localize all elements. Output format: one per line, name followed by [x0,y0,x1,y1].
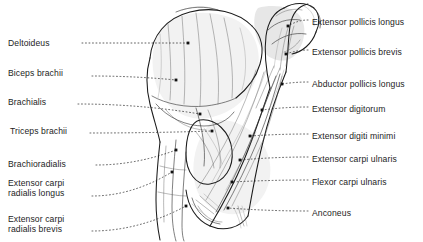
leader-line-abductor-pollicis-longus [282,82,308,84]
muscle-label-extensor-carpi-radialis-longus-line2: radialis longus [8,188,64,198]
leader-endpoint-extensor-carpi-radialis-longus [171,171,174,174]
leader-endpoint-extensor-pollicis-longus [287,25,290,28]
leader-endpoint-extensor-carpi-radialis-brevis [185,205,188,208]
arm-muscle-line-drawing [0,0,423,242]
leader-endpoint-extensor-carpi-ulnaris [239,159,242,162]
muscle-label-brachialis: Brachialis [8,97,46,107]
muscle-label-extensor-carpi-radialis-brevis: Extensor carpiradialis brevis [8,214,64,234]
leader-endpoint-anconeus [227,207,230,210]
leader-endpoint-extensor-pollicis-brevis [285,53,288,56]
shading-layer [153,6,305,214]
leader-endpoint-brachialis [199,113,202,116]
leader-endpoint-extensor-digiti-minimi [249,135,252,138]
muscle-label-extensor-pollicis-longus: Extensor pollicis longus [312,17,404,27]
muscle-label-extensor-carpi-radialis-longus: Extensor carpiradialis longus [8,178,64,198]
muscle-label-triceps-brachii: Triceps brachii [10,126,67,136]
leader-endpoint-deltoideus [187,42,190,45]
leader-endpoint-flexor-carpi-ulnaris [231,181,234,184]
leader-endpoint-brachioradialis [175,149,178,152]
leader-endpoint-triceps-brachii [211,130,214,133]
triceps-region [156,140,186,241]
muscle-label-biceps-brachii: Biceps brachii [8,68,63,78]
leader-line-extensor-digiti-minimi [250,134,308,136]
muscle-label-flexor-carpi-ulnaris: Flexor carpi ulnaris [312,177,387,187]
leader-endpoint-extensor-digitorum [261,109,264,112]
muscle-label-abductor-pollicis-longus: Abductor pollicis longus [312,79,405,89]
muscle-label-extensor-carpi-radialis-brevis-line2: radialis brevis [8,224,64,234]
muscle-label-extensor-carpi-ulnaris: Extensor carpi ulnaris [312,154,397,164]
leader-endpoint-biceps-brachii [175,79,178,82]
muscle-label-extensor-digitorum: Extensor digitorum [312,104,385,114]
leader-line-brachioradialis [96,150,176,165]
muscle-label-anconeus: Anconeus [312,208,351,218]
muscle-label-extensor-pollicis-brevis: Extensor pollicis brevis [312,47,402,57]
muscle-label-extensor-digiti-minimi: Extensor digiti minimi [312,131,395,141]
anatomy-figure: DeltoideusBiceps brachiiBrachialisTricep… [0,0,423,242]
leader-endpoint-abductor-pollicis-longus [281,83,284,86]
leader-line-triceps-brachii [90,131,212,133]
muscle-label-deltoideus: Deltoideus [8,38,50,48]
muscle-label-brachioradialis: Brachioradialis [8,159,66,169]
